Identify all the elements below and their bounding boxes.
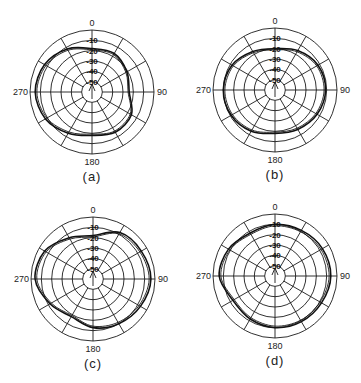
polar-plot-c: -10-20-30-40-50090180270(c) <box>14 205 168 371</box>
subplot-caption: (d) <box>266 353 285 368</box>
ring-label: -20 <box>269 231 281 240</box>
ring-label: -50 <box>87 265 99 274</box>
ring-label: -40 <box>269 65 281 74</box>
ring-label: -50 <box>269 76 281 85</box>
ring-label: -30 <box>269 241 281 250</box>
ring-label: -40 <box>86 67 98 76</box>
ring-label: -40 <box>269 251 281 260</box>
ring-label: -30 <box>87 244 99 253</box>
angle-label-180: 180 <box>267 341 282 351</box>
subplot-caption: (a) <box>83 169 102 184</box>
angle-label-90: 90 <box>158 274 168 284</box>
polar-plot-b: -10-20-30-40-50090180270(b) <box>196 16 350 182</box>
ring-label: -50 <box>269 262 281 271</box>
ring-label: -40 <box>87 254 99 263</box>
ring-label: -10 <box>87 223 99 232</box>
ring-label: -10 <box>269 34 281 43</box>
angle-label-0: 0 <box>272 16 277 26</box>
angle-label-0: 0 <box>90 205 95 215</box>
angle-label-180: 180 <box>267 155 282 165</box>
angle-label-90: 90 <box>340 271 350 281</box>
angle-label-270: 270 <box>196 271 211 281</box>
angle-label-90: 90 <box>340 85 350 95</box>
angle-label-270: 270 <box>196 85 211 95</box>
polar-plot-d: -10-20-30-40-50090180270(d) <box>196 202 350 368</box>
angle-label-180: 180 <box>84 157 99 167</box>
angle-label-90: 90 <box>157 87 167 97</box>
ring-label: -50 <box>86 78 98 87</box>
angle-label-270: 270 <box>13 87 28 97</box>
ring-label: -20 <box>269 45 281 54</box>
subplot-caption: (b) <box>266 167 285 182</box>
angle-label-180: 180 <box>85 344 100 354</box>
angle-label-0: 0 <box>272 202 277 212</box>
ring-label: -20 <box>87 234 99 243</box>
polar-patterns-figure: -10-20-30-40-50090180270(a) -10-20-30-40… <box>0 0 361 383</box>
subplot-caption: (c) <box>84 356 102 371</box>
ring-label: -10 <box>86 36 98 45</box>
ring-label: -30 <box>269 55 281 64</box>
angle-label-270: 270 <box>14 274 29 284</box>
ring-label: -10 <box>269 220 281 229</box>
ring-label: -20 <box>86 47 98 56</box>
angle-label-0: 0 <box>89 18 94 28</box>
polar-plot-a: -10-20-30-40-50090180270(a) <box>13 18 167 184</box>
ring-label: -30 <box>86 57 98 66</box>
